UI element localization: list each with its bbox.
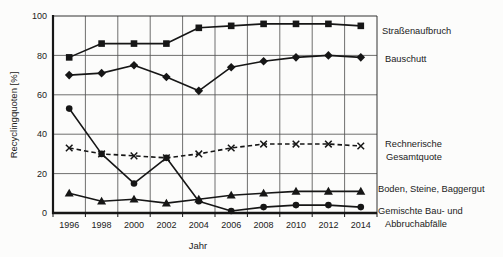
square-marker [293, 21, 300, 28]
x-axis-label: Jahr [189, 240, 207, 251]
x-tick-label: 1996 [59, 220, 79, 230]
y-tick-label: 20 [37, 169, 47, 179]
y-tick-label: 0 [42, 208, 47, 218]
recycling-line-chart: 1996199820002002200420062008201020122014… [0, 0, 503, 257]
square-marker [260, 21, 267, 28]
x-marker [358, 143, 365, 150]
circle-marker [98, 151, 105, 158]
series-bauschutt: Bauschutt [65, 51, 427, 95]
circle-marker [66, 105, 73, 112]
circle-marker [196, 198, 203, 205]
x-tick-label: 2002 [156, 220, 176, 230]
diamond-marker [259, 57, 268, 66]
x-tick-label: 2010 [286, 220, 306, 230]
circle-marker [325, 202, 332, 209]
square-marker [131, 40, 138, 47]
square-marker [196, 25, 203, 32]
square-marker [66, 54, 73, 61]
circle-marker [260, 204, 267, 211]
y-tick-label: 100 [32, 11, 47, 21]
series-gemischte-bau-und-abbruchabfaelle: Gemischte Bau- undAbbruchabfälle [66, 105, 463, 229]
x-tick-label: 2012 [318, 220, 338, 230]
x-tick-label: 2006 [221, 220, 241, 230]
square-marker [228, 23, 235, 30]
x-tick-label: 2014 [351, 220, 371, 230]
square-marker [98, 40, 105, 47]
triangle-marker [65, 189, 74, 197]
series-label-strassenaufbruch: Straßenaufbruch [382, 26, 451, 36]
diamond-marker [97, 69, 106, 78]
diamond-marker [65, 71, 74, 80]
diamond-marker [130, 61, 139, 70]
series-label-boden-steine-baggergut: Boden, Steine, Baggergut [378, 184, 485, 194]
series-rechnerische-gesamtquote: RechnerischeGesamtquote [66, 139, 442, 162]
recycling-quotas-figure: 1996199820002002200420062008201020122014… [0, 0, 503, 257]
y-axis-label: Recyclingquoten [%] [8, 72, 19, 159]
diamond-marker [357, 53, 366, 62]
circle-marker [163, 155, 170, 162]
series-label-rechnerische-gesamtquote: RechnerischeGesamtquote [385, 139, 442, 162]
x-tick-label: 1998 [92, 220, 112, 230]
x-tick-label: 2004 [189, 220, 209, 230]
diamond-marker [324, 51, 333, 60]
x-tick-label: 2008 [254, 220, 274, 230]
square-marker [163, 40, 170, 47]
circle-marker [293, 202, 300, 209]
series-label-bauschutt: Bauschutt [385, 54, 427, 64]
x-tick-label: 2000 [124, 220, 144, 230]
square-marker [358, 23, 365, 30]
circle-marker [358, 204, 365, 211]
square-marker [325, 21, 332, 28]
circle-marker [228, 208, 235, 215]
diamond-marker [162, 73, 171, 82]
y-tick-label: 80 [37, 51, 47, 61]
circle-marker [131, 180, 138, 187]
diamond-marker [292, 53, 301, 62]
series-label-gemischte-bau-und-abbruchabfaelle: Gemischte Bau- undAbbruchabfälle [378, 206, 463, 229]
y-tick-label: 40 [37, 129, 47, 139]
series-boden-steine-baggergut: Boden, Steine, Baggergut [65, 184, 485, 206]
y-tick-label: 60 [37, 90, 47, 100]
